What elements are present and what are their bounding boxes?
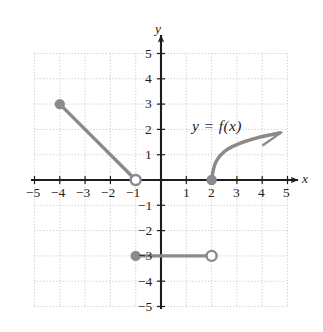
x-tick-label-neg2: −2 bbox=[101, 186, 115, 200]
y-tick-label-neg5: −5 bbox=[138, 300, 152, 314]
y-tick-label-neg3: −3 bbox=[138, 249, 152, 263]
x-tick-label-5: 5 bbox=[283, 186, 290, 200]
y-tick-label-2: 2 bbox=[145, 123, 152, 137]
function-graph-figure: −5 −4 −3 −2 −1 1 2 3 4 5 5 4 3 2 1 −1 −2… bbox=[0, 0, 323, 332]
x-tick-label-4: 4 bbox=[258, 186, 265, 200]
open-endpoint-neg1-0 bbox=[131, 175, 141, 185]
filled-endpoint-2-0 bbox=[206, 175, 216, 185]
x-tick-label-neg3: −3 bbox=[76, 186, 90, 200]
graph-canvas bbox=[0, 0, 323, 332]
x-axis-label: x bbox=[302, 172, 308, 186]
curve-arrowhead bbox=[260, 132, 282, 145]
y-tick-label-5: 5 bbox=[145, 47, 152, 61]
filled-endpoint-neg4-3 bbox=[55, 99, 65, 109]
curve-right bbox=[206, 132, 281, 185]
axes bbox=[31, 35, 298, 309]
x-tick-label-1: 1 bbox=[183, 186, 190, 200]
y-tick-label-4: 4 bbox=[145, 72, 152, 86]
function-label: y = f(x) bbox=[192, 118, 242, 134]
x-tick-label-3: 3 bbox=[233, 186, 240, 200]
x-tick-label-neg4: −4 bbox=[51, 186, 65, 200]
y-axis-label: y bbox=[155, 22, 161, 36]
open-endpoint-2-neg3 bbox=[207, 251, 217, 261]
y-tick-label-1: 1 bbox=[145, 148, 152, 162]
y-tick-label-neg2: −2 bbox=[138, 224, 152, 238]
y-tick-label-3: 3 bbox=[145, 97, 152, 111]
y-tick-label-neg4: −4 bbox=[138, 275, 152, 289]
y-tick-label-neg1: −1 bbox=[138, 199, 152, 213]
x-tick-label-2: 2 bbox=[208, 186, 215, 200]
segment-left bbox=[55, 99, 141, 185]
x-tick-label-neg5: −5 bbox=[26, 186, 40, 200]
